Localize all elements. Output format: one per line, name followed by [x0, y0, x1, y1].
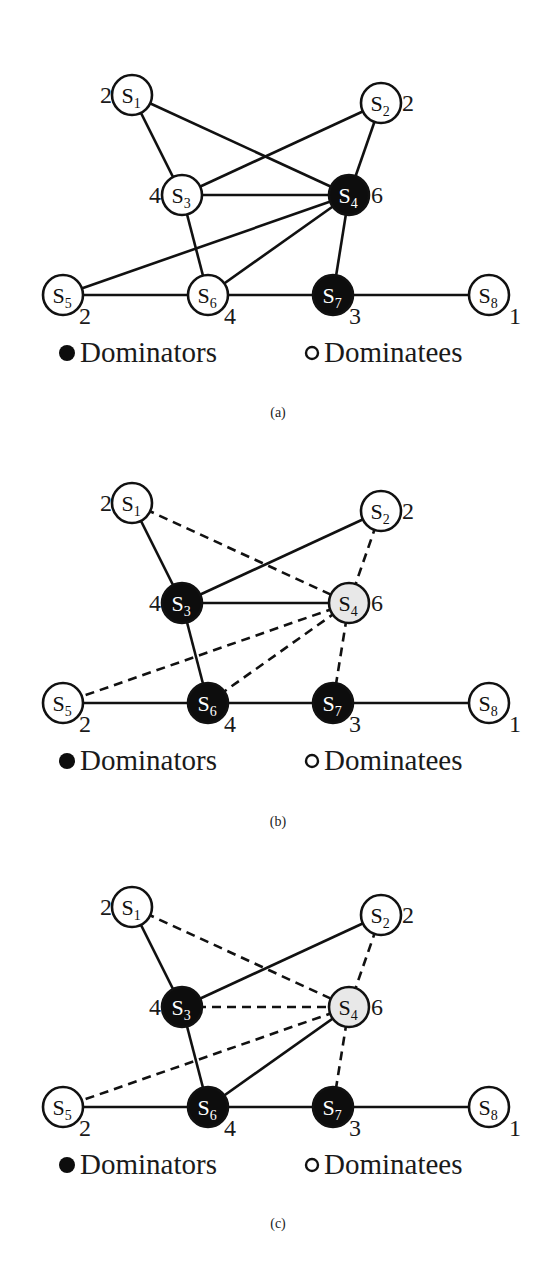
degree-label: 2 [79, 303, 91, 329]
node-s5-dominatee: S52 [43, 683, 91, 737]
node-s2-dominatee: S22 [361, 83, 414, 123]
graph-a: S12S22S34S46S52S64S73S81DominatorsDomina… [0, 0, 556, 380]
node-s1-dominatee: S12 [100, 483, 152, 523]
panel-a: S12S22S34S46S52S64S73S81DominatorsDomina… [0, 0, 556, 430]
degree-label: 6 [371, 994, 383, 1020]
node-s3-dominator: S34 [149, 987, 202, 1027]
nodes: S12S22S34S46S52S64S73S81 [43, 483, 521, 737]
graph-b: S12S22S34S46S52S64S73S81DominatorsDomina… [0, 408, 556, 788]
node-s1-dominatee: S12 [100, 887, 152, 927]
node-s7-dominator: S73 [313, 1087, 361, 1141]
node-s1-dominatee: S12 [100, 75, 152, 115]
degree-label: 1 [509, 303, 521, 329]
node-s8-dominatee: S81 [469, 275, 521, 329]
degree-label: 2 [402, 90, 414, 116]
degree-label: 3 [349, 303, 361, 329]
hollow-circle-icon [306, 755, 318, 767]
legend-dominators-label: Dominators [80, 1148, 217, 1180]
filled-circle-icon [59, 1157, 75, 1173]
legend-dominatees-label: Dominatees [324, 1148, 463, 1180]
degree-label: 4 [224, 1115, 236, 1141]
node-s6-dominatee: S64 [188, 275, 236, 329]
degree-label: 4 [149, 590, 161, 616]
degree-label: 1 [509, 1115, 521, 1141]
degree-label: 2 [100, 490, 112, 516]
legend-dominatees-label: Dominatees [324, 336, 463, 368]
legend-dominators-label: Dominators [80, 744, 217, 776]
panel-c: S12S22S34S46S52S64S73S81DominatorsDomina… [0, 812, 556, 1242]
nodes: S12S22S34S46S52S64S73S81 [43, 75, 521, 329]
legend-dominatees-label: Dominatees [324, 744, 463, 776]
graph-c: S12S22S34S46S52S64S73S81DominatorsDomina… [0, 812, 556, 1192]
node-s6-dominator: S64 [188, 1087, 236, 1141]
panel-b: S12S22S34S46S52S64S73S81DominatorsDomina… [0, 408, 556, 838]
legend-dominators-label: Dominators [80, 336, 217, 368]
edges [63, 95, 489, 295]
node-s3-dominatee: S34 [149, 175, 202, 215]
node-s5-dominatee: S52 [43, 1087, 91, 1141]
edge-s1-s4-dashed [132, 907, 349, 1007]
legend: DominatorsDominatees [59, 336, 463, 368]
node-s8-dominatee: S81 [469, 1087, 521, 1141]
degree-label: 6 [371, 590, 383, 616]
legend: DominatorsDominatees [59, 1148, 463, 1180]
node-s8-dominatee: S81 [469, 683, 521, 737]
node-s4-highlight: S46 [329, 987, 383, 1027]
degree-label: 4 [149, 994, 161, 1020]
legend: DominatorsDominatees [59, 744, 463, 776]
node-s2-dominatee: S22 [361, 895, 414, 935]
degree-label: 3 [349, 711, 361, 737]
node-s7-dominator: S73 [313, 275, 361, 329]
node-s7-dominator: S73 [313, 683, 361, 737]
edge-s1-s4-solid [132, 95, 349, 195]
degree-label: 4 [149, 182, 161, 208]
degree-label: 1 [509, 711, 521, 737]
filled-circle-icon [59, 753, 75, 769]
node-s6-dominator: S64 [188, 683, 236, 737]
degree-label: 2 [100, 894, 112, 920]
node-s4-highlight: S46 [329, 583, 383, 623]
filled-circle-icon [59, 345, 75, 361]
edges [63, 503, 489, 703]
node-s4-dominator: S46 [329, 175, 383, 215]
degree-label: 3 [349, 1115, 361, 1141]
degree-label: 6 [371, 182, 383, 208]
hollow-circle-icon [306, 347, 318, 359]
degree-label: 2 [79, 711, 91, 737]
nodes: S12S22S34S46S52S64S73S81 [43, 887, 521, 1141]
node-s5-dominatee: S52 [43, 275, 91, 329]
hollow-circle-icon [306, 1159, 318, 1171]
degree-label: 2 [402, 498, 414, 524]
degree-label: 2 [79, 1115, 91, 1141]
caption-c: (c) [0, 1216, 556, 1232]
degree-label: 4 [224, 711, 236, 737]
node-s2-dominatee: S22 [361, 491, 414, 531]
edges [63, 907, 489, 1107]
degree-label: 2 [402, 902, 414, 928]
node-s3-dominator: S34 [149, 583, 202, 623]
edge-s1-s4-dashed [132, 503, 349, 603]
degree-label: 4 [224, 303, 236, 329]
degree-label: 2 [100, 82, 112, 108]
